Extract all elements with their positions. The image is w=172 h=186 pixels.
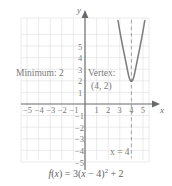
- xtick-label--3: −3: [46, 106, 55, 115]
- ytick-label--4: −4: [75, 147, 84, 156]
- xtick-label--5: −5: [23, 106, 32, 115]
- ytick-label-4: 4: [78, 54, 82, 63]
- equation-equals: = 3(: [62, 168, 81, 179]
- xtick-label-4: 4: [129, 106, 133, 115]
- vertex-annotation-label: Vertex:: [88, 69, 115, 79]
- y-axis-label: y: [77, 6, 81, 15]
- xtick-label--2: −2: [58, 106, 67, 115]
- coordinate-plane-svg: [0, 0, 172, 186]
- ytick-label--3: −3: [75, 135, 84, 144]
- equation-minus-term: − 4): [86, 168, 105, 179]
- function-equation: f(x) = 3(x − 4)2 + 2: [0, 169, 172, 179]
- xtick-label-5: 5: [141, 106, 145, 115]
- x-axis-label: x: [160, 106, 164, 115]
- ytick-label--5: −5: [75, 159, 84, 168]
- xtick-label-1: 1: [94, 106, 98, 115]
- xtick-label-2: 2: [106, 106, 110, 115]
- ytick-label--1: −1: [75, 112, 84, 121]
- minimum-annotation: Minimum: 2: [16, 69, 64, 79]
- ytick-label--2: −2: [75, 124, 84, 133]
- xtick-label--4: −4: [35, 106, 44, 115]
- vertex-annotation-point: (4, 2): [91, 82, 112, 92]
- equation-plus-term: + 2: [108, 168, 124, 179]
- graph-figure: −5 −4 −3 −2 −1 1 2 3 4 5 5 4 3 2 1 −1 −2…: [0, 0, 172, 186]
- ytick-label-1: 1: [78, 89, 82, 98]
- ytick-label-2: 2: [78, 77, 82, 86]
- axis-of-symmetry-annotation: x = 4: [110, 148, 130, 158]
- ytick-label-3: 3: [78, 66, 82, 75]
- ytick-label-5: 5: [78, 43, 82, 52]
- xtick-label-3: 3: [118, 106, 122, 115]
